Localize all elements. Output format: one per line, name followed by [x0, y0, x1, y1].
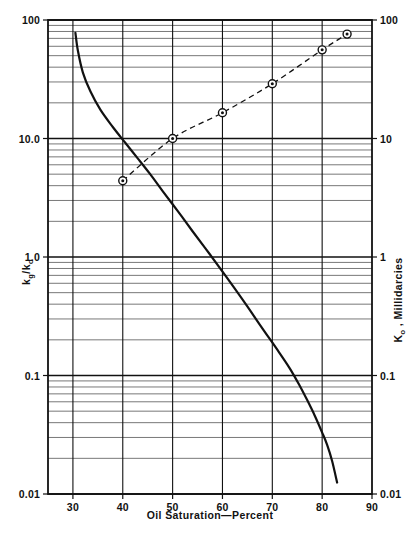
ylabel-left-sub2: o: [26, 259, 35, 264]
y-tick-label-right: 10: [380, 133, 392, 145]
x-tick-label: 90: [366, 501, 378, 513]
y-tick-label-right: 0.1: [380, 370, 395, 382]
ylabel-right-rest: , Millidarcies: [392, 258, 404, 330]
y-tick-label-right: 1: [380, 251, 386, 263]
figure-container: 30405060708090 10010.01.00.10.01 1001010…: [0, 0, 414, 539]
y-tick-label-left: 100: [22, 14, 40, 26]
data-point-center: [221, 111, 224, 114]
y-tick-label-right: 100: [380, 14, 398, 26]
x-axis-title: Oil Saturation—Percent: [147, 509, 274, 521]
x-tick-label: 80: [316, 501, 328, 513]
x-tick-label: 30: [67, 501, 79, 513]
y-tick-label-right: 0.01: [380, 488, 401, 500]
y-tick-label-left: 0.1: [25, 370, 40, 382]
chart-canvas: 30405060708090 10010.01.00.10.01 1001010…: [0, 0, 414, 539]
y-tick-label-left: 0.01: [19, 488, 40, 500]
data-point-center: [171, 137, 174, 140]
data-point-center: [321, 48, 324, 51]
data-point-center: [271, 82, 274, 85]
y-tick-label-left: 10.0: [19, 133, 40, 145]
data-point-center: [346, 33, 349, 36]
x-tick-label: 40: [117, 501, 129, 513]
data-point-center: [121, 179, 124, 182]
ylabel-right-k: K: [392, 334, 404, 342]
